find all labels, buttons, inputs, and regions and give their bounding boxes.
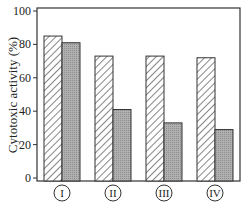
bar-hatched-I [44, 36, 62, 181]
x-category-label: IV [209, 187, 221, 199]
bar-hatched-III [146, 56, 164, 181]
y-tick-label: 60 [19, 71, 31, 85]
bar-gray-I [62, 43, 80, 181]
bar-hatched-II [95, 56, 113, 181]
y-tick-label: 20 [19, 138, 31, 152]
y-tick-label: 40 [19, 104, 31, 118]
x-category-label: II [109, 187, 117, 199]
bar-hatched-IV [197, 58, 215, 181]
y-axis-label: Cytotoxic activity (%) [5, 37, 20, 153]
bar-gray-III [164, 123, 182, 181]
bar-chart: 020406080100 IIIIIIIV Cytotoxic activity… [0, 0, 246, 207]
bar-gray-II [113, 110, 131, 181]
y-tick-label: 80 [19, 37, 31, 51]
y-tick-label: 100 [13, 4, 31, 18]
x-category-label: III [159, 187, 170, 199]
x-axis-categories: IIIIIIIV [54, 185, 223, 201]
bar-gray-IV [215, 130, 233, 181]
bars [44, 36, 233, 181]
x-category-label: I [60, 187, 64, 199]
y-tick-label: 0 [25, 171, 31, 185]
